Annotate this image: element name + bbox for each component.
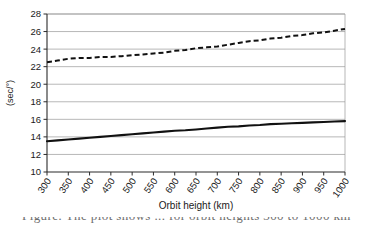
y-tick-label: 16 (30, 114, 41, 125)
x-tick-label: 850 (269, 176, 287, 195)
x-axis-title: Orbit height (km) (159, 200, 233, 211)
y-tick-label: 20 (30, 79, 41, 90)
x-tick-label: 900 (290, 176, 308, 195)
x-tick-label: 650 (184, 176, 202, 195)
y-tick-label: 28 (30, 8, 41, 19)
x-tick-label: 950 (312, 176, 330, 195)
chart-figure: 10121416182022242628 3003504004505005506… (0, 0, 366, 226)
x-tick-label: 1000 (330, 176, 351, 200)
x-tick-label: 350 (56, 176, 74, 195)
y-tick-label: 24 (30, 44, 41, 55)
x-tick-label: 400 (78, 176, 96, 195)
y-tick-label: 10 (30, 166, 41, 177)
x-tick-label: 450 (99, 176, 117, 195)
y-axis-title: (sec/°) (5, 80, 15, 106)
figure-caption-strip: Figure: The plot shows ... for orbit hei… (0, 217, 366, 226)
figure-caption: Figure: The plot shows ... for orbit hei… (22, 217, 351, 224)
y-tick-label: 12 (30, 149, 41, 160)
x-tick-label: 550 (141, 176, 159, 195)
y-tick-label: 18 (30, 96, 41, 107)
y-tick-label: 14 (30, 131, 41, 142)
orbit-height-line-chart: 10121416182022242628 3003504004505005506… (0, 0, 366, 212)
y-tick-label: 26 (30, 26, 41, 37)
x-tick-label: 500 (120, 176, 138, 195)
x-tick-label: 800 (248, 176, 266, 195)
x-tick-label: 300 (35, 176, 53, 195)
x-tick-label: 750 (227, 176, 245, 195)
y-tick-label: 22 (30, 61, 41, 72)
x-tick-label: 700 (205, 176, 223, 195)
x-tick-label: 600 (163, 176, 181, 195)
x-axis: 3003504004505005506006507007508008509009… (35, 172, 351, 199)
plot-background (47, 14, 345, 172)
